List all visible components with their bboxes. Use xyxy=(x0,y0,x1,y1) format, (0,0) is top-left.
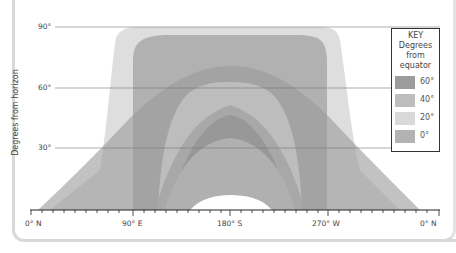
x-tick-0-n: 0° N xyxy=(25,219,42,228)
legend-label-40: 40° xyxy=(420,95,434,105)
x-tick-270-w: 270° W xyxy=(312,219,340,228)
legend-swatch-20 xyxy=(395,112,415,125)
sun-path-chart xyxy=(0,0,456,253)
legend-key: KEY Degrees from equator 60° 40° 20° 0° xyxy=(391,28,440,152)
legend-label-20: 20° xyxy=(420,113,434,123)
legend-title-3: from xyxy=(392,51,439,61)
legend-entry-0: 0° xyxy=(395,129,439,143)
x-tick-90-e: 90° E xyxy=(122,219,142,228)
legend-title-4: equator xyxy=(392,61,439,71)
legend-entry-40: 40° xyxy=(395,93,439,107)
legend-title-2: Degrees xyxy=(392,41,439,51)
legend-label-0: 0° xyxy=(420,131,429,141)
legend-swatch-60 xyxy=(395,76,415,89)
y-tick-60: 60° xyxy=(38,83,51,92)
x-tick-360-n: 0° N xyxy=(420,219,437,228)
x-axis-ticks xyxy=(31,210,439,216)
y-tick-30: 30° xyxy=(38,143,51,152)
y-tick-90: 90° xyxy=(38,22,51,31)
legend-swatch-0 xyxy=(395,130,415,143)
legend-entry-60: 60° xyxy=(395,75,439,89)
legend-label-60: 60° xyxy=(420,77,434,87)
x-tick-180-s: 180° S xyxy=(217,219,242,228)
y-axis-label: Degrees from horizon xyxy=(11,58,20,168)
legend-entry-20: 20° xyxy=(395,111,439,125)
legend-title-1: KEY xyxy=(392,31,439,41)
legend-swatch-40 xyxy=(395,94,415,107)
